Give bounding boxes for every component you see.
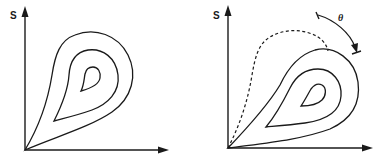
- left-x-axis: [25, 147, 169, 154]
- figure: S S: [0, 0, 376, 157]
- left-x-axis-arrow-icon: [158, 147, 169, 154]
- left-outer-contour: [25, 32, 133, 150]
- right-y-axis: [225, 5, 232, 148]
- left-y-axis-arrow-icon: [22, 6, 29, 17]
- right-panel: S θ: [213, 5, 373, 152]
- right-outer-contour: [228, 49, 358, 148]
- right-x-axis-arrow-icon: [362, 145, 373, 152]
- right-y-axis-label: S: [213, 10, 220, 21]
- diagram-svg: S S: [0, 0, 376, 157]
- left-y-axis-label: S: [10, 10, 17, 21]
- rotation-arrow-head-icon: [351, 43, 358, 53]
- right-inner-contour: [301, 84, 325, 106]
- right-y-axis-arrow-icon: [225, 5, 232, 16]
- left-panel: S: [10, 6, 169, 154]
- right-middle-contour: [266, 69, 341, 127]
- left-inner-contour: [81, 67, 100, 91]
- left-middle-contour: [54, 50, 118, 121]
- theta-label: θ: [338, 12, 344, 23]
- left-y-axis: [22, 6, 29, 150]
